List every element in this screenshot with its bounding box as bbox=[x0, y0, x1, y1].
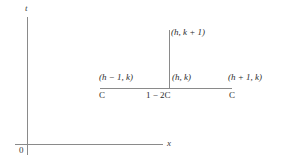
stencil-node-label-top: (h, k + 1) bbox=[171, 27, 205, 37]
origin-label: 0 bbox=[19, 146, 24, 155]
stencil-horizontal-line bbox=[100, 88, 232, 89]
finite-difference-stencil-figure: t x 0 (h, k + 1) (h − 1, k) (h, k) (h + … bbox=[0, 0, 287, 166]
stencil-coefficient-center: 1 − 2C bbox=[146, 90, 171, 100]
stencil-coefficient-left: C bbox=[99, 90, 105, 100]
x-axis-line bbox=[15, 144, 163, 145]
stencil-coefficient-right: C bbox=[229, 90, 235, 100]
t-axis-label: t bbox=[25, 4, 28, 13]
stencil-vertical-line bbox=[169, 30, 170, 88]
stencil-node-label-center: (h, k) bbox=[172, 72, 191, 82]
stencil-node-label-left: (h − 1, k) bbox=[99, 72, 133, 82]
t-axis-line bbox=[27, 17, 28, 155]
stencil-node-label-right: (h + 1, k) bbox=[228, 72, 262, 82]
x-axis-label: x bbox=[167, 139, 171, 148]
